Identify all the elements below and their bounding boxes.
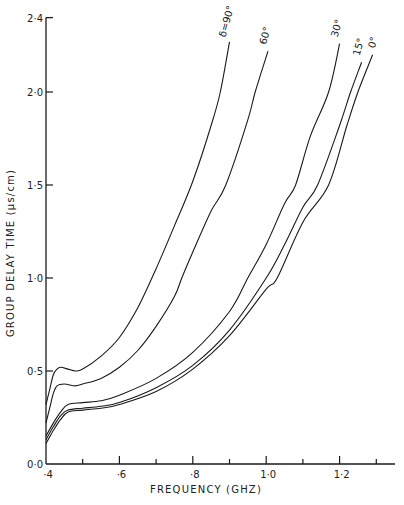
- curve-label: 15°: [351, 37, 366, 57]
- y-tick-label: 2·0: [27, 87, 43, 98]
- x-tick-label: ·4: [43, 469, 53, 480]
- curve-label: 60°: [257, 26, 272, 46]
- curve-label: 30°: [329, 18, 344, 38]
- x-tick-label: 1·2: [334, 469, 350, 480]
- x-tick-label: ·6: [117, 469, 127, 480]
- curve-label: 0°: [366, 35, 380, 49]
- y-tick-label: 1·5: [27, 180, 43, 191]
- x-tick-label: ·8: [190, 469, 200, 480]
- y-tick-label: 2·4: [27, 13, 43, 24]
- curve-delta-60: [46, 51, 268, 423]
- x-axis-title: FREQUENCY (GHZ): [150, 484, 262, 495]
- curves: [46, 42, 373, 444]
- y-tick-label: 0·0: [27, 459, 43, 470]
- group-delay-chart: 0·00·51·01·52·02·4·4·6·81·01·2 δ=90°60°3…: [0, 0, 404, 505]
- x-tick-label: 1·0: [260, 469, 276, 480]
- curve-delta-15: [46, 62, 362, 440]
- y-axis-title: GROUP DELAY TIME (μs/cm): [5, 169, 16, 337]
- chart-canvas: 0·00·51·01·52·02·4·4·6·81·01·2 δ=90°60°3…: [0, 0, 404, 505]
- curve-label: δ=90°: [217, 4, 236, 38]
- y-tick-label: 0·5: [27, 366, 43, 377]
- y-tick-label: 1·0: [27, 273, 43, 284]
- curve-delta-30: [46, 44, 340, 437]
- curve-delta-0: [46, 55, 373, 444]
- curve-labels: δ=90°60°30°15°0°: [217, 4, 380, 56]
